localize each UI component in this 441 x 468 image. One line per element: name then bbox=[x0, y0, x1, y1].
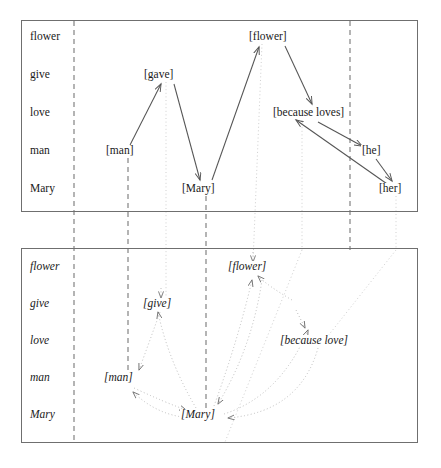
row-label-bottom-give: give bbox=[30, 298, 49, 310]
row-label-top-love: love bbox=[30, 107, 50, 119]
panel-surface-structure bbox=[21, 20, 418, 212]
row-label-bottom-man: man bbox=[30, 372, 50, 384]
node-bottom-flower: [flower] bbox=[227, 261, 267, 273]
node-top-her: [her] bbox=[378, 183, 402, 195]
node-bottom-mary: [Mary] bbox=[180, 409, 216, 421]
row-label-bottom-love: love bbox=[30, 335, 49, 347]
node-bottom-because-love: [because love] bbox=[279, 335, 349, 347]
node-top-gave: [gave] bbox=[143, 69, 174, 81]
node-top-because-loves: [because loves] bbox=[272, 107, 345, 119]
row-label-top-man: man bbox=[30, 145, 50, 157]
node-top-man: [man] bbox=[105, 145, 134, 157]
node-top-he: [he] bbox=[361, 145, 382, 157]
row-label-top-flower: flower bbox=[30, 31, 60, 43]
node-bottom-give: [give] bbox=[142, 298, 172, 310]
figure-canvas: flower give love man Mary [flower] [gave… bbox=[0, 0, 441, 468]
node-top-flower: [flower] bbox=[248, 31, 288, 43]
row-label-top-mary: Mary bbox=[30, 183, 55, 195]
node-bottom-man: [man] bbox=[103, 372, 134, 384]
row-label-bottom-flower: flower bbox=[30, 261, 59, 273]
row-label-top-give: give bbox=[30, 69, 50, 81]
panel-deep-structure bbox=[21, 248, 418, 443]
row-label-bottom-mary: Mary bbox=[30, 409, 55, 421]
node-top-mary: [Mary] bbox=[181, 183, 216, 195]
